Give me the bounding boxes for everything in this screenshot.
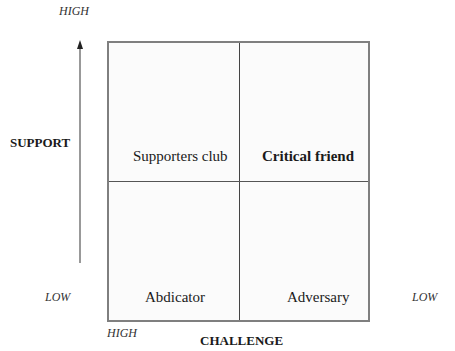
quadrant-abdicator: Abdicator (145, 289, 205, 306)
quadrant-critical-friend: Critical friend (262, 148, 354, 165)
quadrant-adversary: Adversary (287, 289, 349, 306)
quadrant-supporters-club: Supporters club (133, 148, 228, 165)
horizontal-divider (109, 181, 368, 182)
challenge-high-label: HIGH (107, 326, 137, 341)
support-challenge-matrix: Supporters club Critical friend Abdicato… (107, 41, 370, 322)
challenge-axis-label: CHALLENGE (200, 333, 283, 349)
challenge-low-label: LOW (412, 290, 437, 305)
